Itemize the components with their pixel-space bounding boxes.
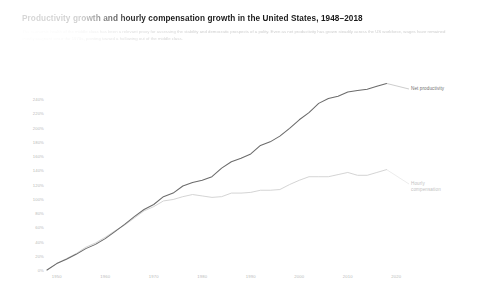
- x-axis-tick-label: 2000: [294, 274, 304, 279]
- chart-plot-area: 240%220%200%180%160%140%120%100%80%60%40…: [0, 0, 478, 297]
- x-axis-tick-label: 1990: [246, 274, 256, 279]
- x-axis-tick-label: 2020: [391, 274, 401, 279]
- chart-page: Productivity growth and hourly compensat…: [0, 0, 478, 297]
- x-axis-tick-label: 1950: [52, 274, 62, 279]
- x-axis-tick-labels: 19501960197019801990200020102020: [0, 0, 478, 297]
- series-label-net-productivity: Net productivity: [411, 86, 444, 92]
- x-axis-tick-label: 1980: [197, 274, 207, 279]
- series-label-hourly-compensation: Hourly compensation: [411, 181, 441, 192]
- x-axis-tick-label: 2010: [343, 274, 353, 279]
- x-axis-tick-label: 1960: [100, 274, 110, 279]
- x-axis-tick-label: 1970: [149, 274, 159, 279]
